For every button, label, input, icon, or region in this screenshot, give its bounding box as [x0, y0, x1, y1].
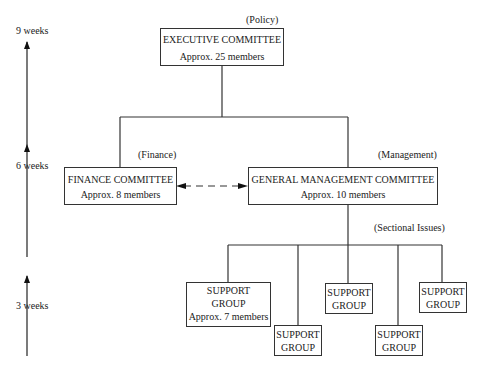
executive-committee-box: EXECUTIVE COMMITTEE Approx. 25 members — [160, 28, 284, 66]
support-group-4-line1: SUPPORT — [376, 328, 422, 341]
support-group-3-line2: GROUP — [326, 299, 372, 312]
general-management-committee-box: GENERAL MANAGEMENT COMMITTEE Approx. 10 … — [248, 167, 438, 205]
dashed-link-arrow — [176, 183, 248, 189]
finance-annotation: (Finance) — [138, 149, 176, 161]
support-group-4-line2: GROUP — [376, 341, 422, 354]
support-group-5-line1: SUPPORT — [420, 285, 466, 298]
policy-annotation: (Policy) — [246, 14, 278, 26]
sectional-issues-annotation: (Sectional Issues) — [374, 222, 445, 234]
support-group-3-line1: SUPPORT — [326, 286, 372, 299]
support-group-1-members: Approx. 7 members — [187, 310, 270, 323]
finance-committee-box: FINANCE COMMITTEE Approx. 8 members — [64, 167, 177, 205]
executive-committee-members: Approx. 25 members — [161, 50, 283, 63]
support-group-box-3: SUPPORT GROUP — [325, 283, 373, 314]
timeline-label-9-weeks: 9 weeks — [16, 25, 49, 37]
support-group-2-line1: SUPPORT — [275, 328, 321, 341]
support-group-box-1: SUPPORT GROUP Approx. 7 members — [186, 282, 271, 327]
timeline-label-3-weeks: 3 weeks — [16, 300, 49, 312]
finance-committee-members: Approx. 8 members — [65, 188, 176, 201]
general-management-committee-title: GENERAL MANAGEMENT COMMITTEE — [249, 173, 437, 186]
finance-committee-title: FINANCE COMMITTEE — [65, 173, 176, 186]
support-group-1-line1: SUPPORT — [187, 284, 270, 297]
support-group-5-line2: GROUP — [420, 298, 466, 311]
general-management-committee-members: Approx. 10 members — [249, 188, 437, 201]
management-annotation: (Management) — [378, 149, 437, 161]
timeline-label-6-weeks: 6 weeks — [16, 160, 49, 172]
support-group-box-4: SUPPORT GROUP — [375, 325, 423, 356]
support-group-1-line2: GROUP — [187, 297, 270, 310]
support-group-box-2: SUPPORT GROUP — [274, 325, 322, 356]
support-group-box-5: SUPPORT GROUP — [419, 282, 467, 313]
support-group-2-line2: GROUP — [275, 341, 321, 354]
executive-committee-title: EXECUTIVE COMMITTEE — [161, 33, 283, 46]
